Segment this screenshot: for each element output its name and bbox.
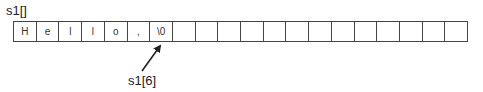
pointer-label: s1[6] (128, 73, 156, 88)
pointer-arrow-icon (0, 0, 483, 92)
